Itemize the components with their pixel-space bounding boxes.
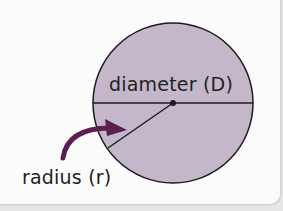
center-point <box>170 100 176 106</box>
radius-label: radius (r) <box>22 166 111 188</box>
diameter-label: diameter (D) <box>109 73 233 95</box>
